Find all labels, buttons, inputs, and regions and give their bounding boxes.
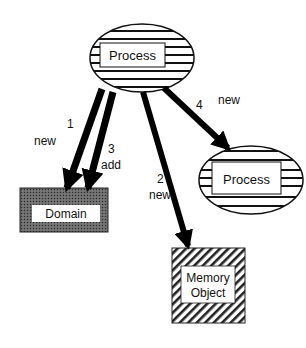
edge-3-number: 3 (108, 142, 115, 156)
edge-4-number: 4 (196, 98, 203, 112)
edge-2-label: new (149, 188, 171, 202)
process-top-label: Process (109, 48, 156, 63)
edge-2-number: 2 (157, 172, 164, 186)
edge-1-label: new (34, 134, 56, 148)
process-node-right: Process (195, 146, 305, 214)
process-node-top: Process (80, 24, 205, 92)
edge-3-label: add (101, 158, 121, 172)
process-right-label: Process (223, 172, 270, 187)
arrow-edge-3 (88, 92, 113, 188)
arrow-edge-1 (67, 89, 102, 188)
memory-object-label-line2: Object (191, 286, 226, 300)
memory-object-node: Memory Object (172, 248, 245, 323)
edge-4-label: new (218, 93, 240, 107)
domain-label: Domain (45, 207, 86, 221)
arrow-edge-2 (143, 92, 188, 246)
memory-object-label-line1: Memory (186, 271, 229, 285)
diagram-canvas: Process Process Domain Memory Object (0, 0, 306, 348)
edge-1-number: 1 (67, 117, 74, 131)
domain-node: Domain (20, 188, 108, 232)
